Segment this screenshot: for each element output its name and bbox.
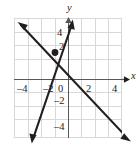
intersection-point-marker <box>52 49 59 56</box>
y-tick-label-4: 4 <box>57 28 62 39</box>
graph-canvas <box>0 0 140 147</box>
x-tick-label-2: 2 <box>86 84 91 95</box>
y-tick-label-neg2: –2 <box>54 96 65 107</box>
x-axis-arrowhead <box>124 76 130 83</box>
y-tick-label-neg4: –4 <box>54 122 65 133</box>
x-tick-label-4: 4 <box>112 84 117 95</box>
coordinate-plane-figure: –4 –2 0 2 4 4 2 –2 –4 x y <box>0 0 140 147</box>
y-tick-label-2: 2 <box>59 42 64 53</box>
x-tick-label-neg2: –2 <box>43 84 54 95</box>
x-tick-label-neg4: –4 <box>17 84 28 95</box>
x-axis-label: x <box>131 71 136 82</box>
x-tick-label-zero: 0 <box>58 84 63 95</box>
ascending-line-arrow-bottom <box>29 133 36 143</box>
y-axis-label: y <box>67 3 72 14</box>
